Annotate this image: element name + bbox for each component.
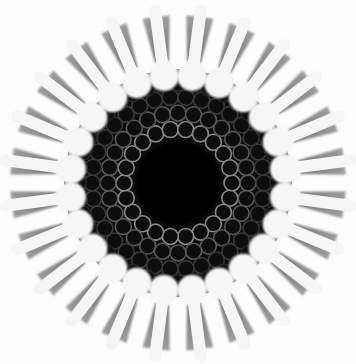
cell (154, 243, 170, 259)
bulb (263, 127, 293, 157)
cell (102, 159, 118, 175)
cell (162, 122, 178, 138)
cell (186, 107, 202, 123)
bulb (56, 182, 86, 212)
cross-section-image (0, 0, 356, 364)
cell (238, 191, 254, 207)
cell (178, 122, 194, 138)
bulb (204, 268, 234, 298)
cell (222, 160, 238, 176)
bulb (177, 61, 207, 91)
bulb (149, 61, 179, 91)
cell (233, 145, 249, 161)
bulb (122, 68, 152, 98)
bulb (177, 275, 207, 305)
cell (170, 105, 186, 121)
cell (118, 190, 134, 206)
cell (116, 175, 132, 191)
cell (107, 205, 123, 221)
cell (100, 175, 116, 191)
core (136, 141, 220, 225)
bulb (56, 154, 86, 184)
bulb (63, 209, 93, 239)
cell (170, 245, 186, 261)
cell (178, 228, 194, 244)
cell (102, 191, 118, 207)
cell (224, 175, 240, 191)
bulb (149, 275, 179, 305)
cell (186, 243, 202, 259)
cell (238, 159, 254, 175)
cell (240, 175, 256, 191)
cell (154, 107, 170, 123)
bulb (270, 182, 300, 212)
cell (162, 228, 178, 244)
bulb (270, 154, 300, 184)
micrograph-stage (0, 0, 356, 364)
